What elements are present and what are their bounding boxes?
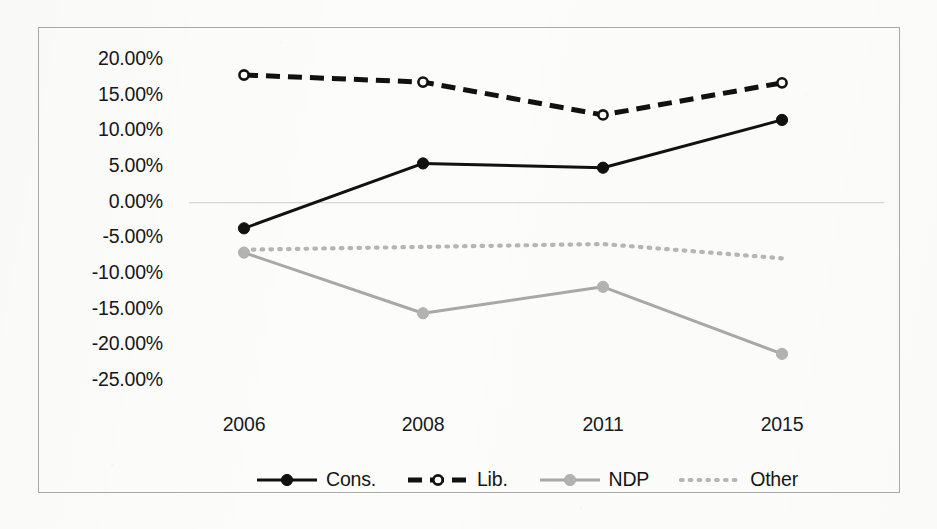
series-line [244,253,782,354]
data-point-marker [776,348,787,359]
y-axis-tick-label: -15.00% [55,297,163,320]
y-axis-tick-label: -5.00% [55,225,163,248]
data-point-marker [597,281,608,292]
legend-item-ndp[interactable]: NDP [538,468,650,491]
series-other [244,244,782,258]
series-lib [239,70,786,119]
legend-swatch-icon [406,471,470,489]
series-line [244,75,782,115]
legend-item-other[interactable]: Other [679,468,798,491]
legend-item-label: Lib. [477,468,508,491]
x-axis-tick-label: 2011 [558,413,648,436]
chart-legend: Cons.Lib.NDPOther [255,468,798,491]
data-point-marker [238,223,249,234]
series-line [244,120,782,228]
y-axis-tick-label: 15.00% [55,83,163,106]
series-line [244,244,782,258]
data-point-marker [777,78,786,87]
y-axis-tick-label: -10.00% [55,261,163,284]
legend-item-label: NDP [609,468,650,491]
y-axis-tick-label: 5.00% [55,154,163,177]
data-point-marker [239,70,248,79]
y-axis-tick-label: -20.00% [55,332,163,355]
legend-item-cons[interactable]: Cons. [255,468,376,491]
x-axis-tick-label: 2006 [199,413,289,436]
legend-swatch-icon [538,471,602,489]
legend-item-label: Cons. [326,468,376,491]
data-point-marker [418,78,427,87]
y-axis-tick-label: 20.00% [55,47,163,70]
chart-page: 20.00%15.00%10.00%5.00%0.00%-5.00%-10.00… [0,0,937,529]
x-axis-tick-label: 2015 [737,413,827,436]
data-point-marker [417,158,428,169]
legend-swatch-icon [255,471,319,489]
legend-item-lib[interactable]: Lib. [406,468,508,491]
y-axis-tick-label: 10.00% [55,118,163,141]
data-point-marker [597,162,608,173]
series-cons [238,114,787,234]
data-point-marker [776,114,787,125]
data-point-marker [417,308,428,319]
chart-frame: 20.00%15.00%10.00%5.00%0.00%-5.00%-10.00… [38,27,900,493]
data-point-marker [598,110,607,119]
legend-item-label: Other [750,468,798,491]
series-ndp [238,247,787,359]
y-axis-tick-label: -25.00% [55,368,163,391]
y-axis-tick-label: 0.00% [55,190,163,213]
x-axis-tick-label: 2008 [378,413,468,436]
legend-swatch-icon [679,471,743,489]
